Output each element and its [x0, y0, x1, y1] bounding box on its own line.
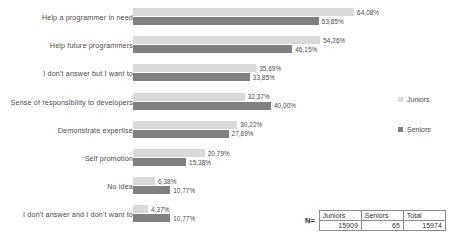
legend-item-senior[interactable]: Seniors [398, 126, 456, 133]
bar-value-label: 32,37% [248, 93, 270, 100]
bar-junior[interactable]: 4,37% [133, 205, 170, 213]
bar-rect [133, 36, 320, 44]
bar-value-label: 53,85% [322, 18, 344, 25]
table-cell: 15909 [319, 221, 361, 231]
bar-value-label: 6,38% [158, 178, 176, 185]
chart-category-row: Demonstrate expertise30,22%27,69% [0, 116, 459, 144]
legend-item-label: Juniors [407, 96, 430, 103]
bar-senior[interactable]: 46,15% [133, 45, 317, 53]
bar-rect [133, 8, 354, 16]
bar-rect [133, 186, 170, 194]
category-axis-label: Demonstrate expertise [0, 125, 133, 134]
category-axis-label: I don't answer and I don't want to [0, 210, 133, 219]
bar-rect [133, 64, 256, 72]
bar-value-label: 64,08% [357, 9, 379, 16]
bar-value-label: 15,38% [189, 159, 211, 166]
table-column-header: Juniors [319, 211, 361, 221]
category-axis-label: Help a programmer in need [0, 13, 133, 22]
bar-junior[interactable]: 30,22% [133, 121, 262, 129]
bar-junior[interactable]: 32,37% [133, 93, 270, 101]
bar-value-label: 27,69% [232, 130, 254, 137]
chart-category-row: I don't answer but I want to35,69%33,85% [0, 59, 459, 87]
bar-junior[interactable]: 6,38% [133, 177, 176, 185]
category-axis-label: Self promotion [0, 154, 133, 163]
bar-senior[interactable]: 10,77% [133, 214, 195, 222]
chart-category-row: Help a programmer in need64,08%53,85% [0, 3, 459, 31]
bar-rect [133, 158, 186, 166]
bar-rect [133, 214, 170, 222]
bar-junior[interactable]: 54,26% [133, 36, 345, 44]
bar-junior[interactable]: 64,08% [133, 8, 379, 16]
bar-value-label: 40,00% [274, 102, 296, 109]
bar-rect [133, 177, 155, 185]
bar-value-label: 30,22% [240, 121, 262, 128]
bar-rect [133, 121, 237, 129]
sample-size-table-block: N= JuniorsSeniorsTotal 159096515974 [305, 210, 446, 231]
category-axis-label: I don't answer but I want to [0, 69, 133, 78]
bar-rect [133, 102, 271, 110]
bar-senior[interactable]: 40,00% [133, 102, 296, 110]
chart-category-row: Help future programmers54,26%46,15% [0, 31, 459, 59]
table-cell: 15974 [403, 221, 445, 231]
chart-legend: JuniorsSeniors [398, 96, 456, 156]
bar-value-label: 10,77% [173, 215, 195, 222]
n-equals-label: N= [305, 216, 315, 225]
legend-item-label: Seniors [407, 126, 431, 133]
bar-value-label: 54,26% [323, 37, 345, 44]
bar-junior[interactable]: 35,69% [133, 64, 281, 72]
table-cell: 65 [361, 221, 403, 231]
bar-rect [133, 45, 292, 53]
category-bar-group: 54,26%46,15% [133, 31, 459, 59]
legend-swatch-icon [398, 97, 403, 102]
bar-rect [133, 149, 205, 157]
chart-category-row: Self promotion20,79%15,38% [0, 144, 459, 172]
bar-value-label: 10,77% [173, 187, 195, 194]
bar-value-label: 20,79% [208, 150, 230, 157]
bar-rect [133, 130, 229, 138]
legend-item-junior[interactable]: Juniors [398, 96, 456, 103]
bar-senior[interactable]: 27,69% [133, 130, 254, 138]
chart-category-row: Sense of responsibility to developers32,… [0, 88, 459, 116]
bar-rect [133, 73, 250, 81]
bar-junior[interactable]: 20,79% [133, 149, 230, 157]
bar-senior[interactable]: 15,38% [133, 158, 211, 166]
survey-bar-chart: Help a programmer in need64,08%53,85%Hel… [0, 0, 459, 245]
bar-rect [133, 17, 319, 25]
bar-senior[interactable]: 33,85% [133, 73, 275, 81]
category-bar-group: 35,69%33,85% [133, 59, 459, 87]
category-axis-label: Sense of responsibility to developers [0, 97, 133, 106]
chart-category-row: No idea6,38%10,77% [0, 172, 459, 200]
bar-value-label: 4,37% [151, 206, 169, 213]
legend-swatch-icon [398, 127, 403, 132]
sample-size-table: JuniorsSeniorsTotal 159096515974 [319, 210, 446, 231]
category-axis-label: Help future programmers [0, 41, 133, 50]
category-axis-label: No idea [0, 182, 133, 191]
bar-value-label: 35,69% [259, 65, 281, 72]
category-bar-group: 6,38%10,77% [133, 172, 459, 200]
bar-senior[interactable]: 53,85% [133, 17, 344, 25]
table-column-header: Seniors [361, 211, 403, 221]
table-column-header: Total [403, 211, 445, 221]
category-bar-group: 64,08%53,85% [133, 3, 459, 31]
table-row: 159096515974 [319, 221, 445, 231]
chart-plot-area: Help a programmer in need64,08%53,85%Hel… [0, 0, 459, 245]
bar-value-label: 33,85% [253, 74, 275, 81]
bar-senior[interactable]: 10,77% [133, 186, 195, 194]
bar-value-label: 46,15% [295, 46, 317, 53]
bar-rect [133, 93, 245, 101]
table-header-row: JuniorsSeniorsTotal [319, 211, 445, 221]
bar-rect [133, 205, 148, 213]
